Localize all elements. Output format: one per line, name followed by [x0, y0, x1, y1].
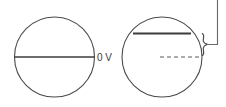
- leader-line: [208, 0, 218, 45]
- diagram-svg: 0 V: [0, 0, 226, 107]
- offset-brace: [202, 34, 207, 56]
- zero-volts-label: 0 V: [97, 52, 112, 63]
- figure-canvas: 0 V: [0, 0, 226, 107]
